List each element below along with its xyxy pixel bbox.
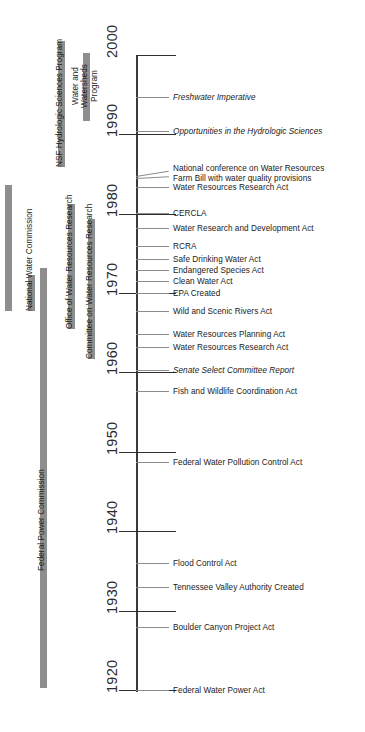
- event-label-federal-water-power-act: Federal Water Power Act: [173, 686, 265, 695]
- event-label-rcra: RCRA: [173, 242, 196, 251]
- event-leader-senate-select-committee-report: [136, 370, 169, 371]
- axis-tick-1950: [119, 452, 176, 453]
- event-leader-flood-control-act: [136, 563, 169, 564]
- year-label-1990: 1990: [104, 104, 120, 137]
- event-leader-water-research-development-act: [136, 228, 169, 229]
- event-leader-water-resources-research-act-1964: [136, 347, 169, 348]
- event-leader-water-resources-research-act-1984: [136, 187, 169, 188]
- program-label-line-2: Watersheds Program: [80, 64, 98, 108]
- program-label-nsf-hydrologic-sciences: NSF Hydrologic Sciences Program: [55, 39, 64, 167]
- axis-tick-1960: [119, 372, 176, 373]
- event-leader-clean-water-act: [136, 281, 169, 282]
- program-label-line-1: Water and: [71, 67, 80, 105]
- event-leader-tennessee-valley-authority: [136, 587, 169, 588]
- event-label-national-conference-water-resources: National conference on Water Resources: [173, 164, 324, 173]
- program-label-federal-power-commission: Federal Power Commission: [37, 469, 46, 571]
- event-leader-freshwater-imperative: [136, 97, 169, 98]
- event-label-senate-select-committee-report: Senate Select Committee Report: [173, 366, 294, 375]
- event-leader-epa-created: [136, 293, 169, 294]
- program-label-committee-on-water-resources-research: Committee on Water Resources Research: [85, 204, 94, 359]
- event-leader-federal-water-power-act: [136, 690, 169, 691]
- event-label-water-resources-research-act-1984: Water Resources Research Act: [173, 183, 288, 192]
- timeline-figure: NSF Hydrologic Sciences Program Water an…: [0, 0, 365, 732]
- year-label-1980: 1980: [104, 184, 120, 217]
- event-leader-rcra: [136, 246, 169, 247]
- axis-tick-2000: [136, 55, 176, 56]
- event-label-tennessee-valley-authority: Tennessee Valley Authority Created: [173, 583, 304, 592]
- year-label-1930: 1930: [104, 581, 120, 614]
- program-label-office-of-water-resources-research: Office of Water Resources Research: [65, 194, 74, 329]
- year-label-2000: 2000: [104, 25, 120, 58]
- event-label-flood-control-act: Flood Control Act: [173, 559, 237, 568]
- event-leader-wild-scenic-rivers-act: [136, 311, 169, 312]
- axis-tick-1990: [119, 134, 176, 135]
- event-label-opportunities-hydrologic-sciences: Opportunities in the Hydrologic Sciences: [173, 127, 322, 136]
- axis-tick-1980: [119, 214, 176, 215]
- event-label-federal-water-pollution-control-act: Federal Water Pollution Control Act: [173, 458, 302, 467]
- event-label-farm-bill: Farm Bill with water quality provisions: [173, 174, 311, 183]
- axis-tick-1940: [119, 531, 176, 532]
- event-leader-federal-water-pollution-control-act: [136, 462, 169, 463]
- event-label-wild-scenic-rivers-act: Wild and Scenic Rivers Act: [173, 307, 272, 316]
- year-label-1950: 1950: [104, 422, 120, 455]
- event-label-water-research-development-act: Water Research and Development Act: [173, 224, 314, 233]
- program-bar-leftmost-unlabeled: [5, 185, 12, 311]
- year-label-1920: 1920: [104, 660, 120, 693]
- event-leader-fish-wildlife-coordination-act: [136, 391, 169, 392]
- timeline-axis: [136, 55, 138, 692]
- event-label-epa-created: EPA Created: [173, 289, 220, 298]
- year-label-1960: 1960: [104, 342, 120, 375]
- axis-tick-1930: [119, 611, 176, 612]
- event-label-cercla: CERCLA: [173, 209, 207, 218]
- event-leader-safe-drinking-water-act: [136, 259, 169, 260]
- event-leader-water-resources-planning-act: [136, 334, 169, 335]
- event-label-fish-wildlife-coordination-act: Fish and Wildlife Coordination Act: [173, 387, 297, 396]
- program-label-national-water-commission: National Water Commission: [25, 209, 34, 311]
- event-label-boulder-canyon-project-act: Boulder Canyon Project Act: [173, 623, 274, 632]
- year-label-1970: 1970: [104, 263, 120, 296]
- event-label-safe-drinking-water-act: Safe Drinking Water Act: [173, 255, 261, 264]
- event-leader-endangered-species-act: [136, 270, 169, 271]
- event-label-water-resources-research-act-1964: Water Resources Research Act: [173, 343, 288, 352]
- event-label-freshwater-imperative: Freshwater Imperative: [173, 93, 256, 102]
- event-leader-farm-bill: [136, 176, 169, 179]
- year-label-1940: 1940: [104, 501, 120, 534]
- event-leader-opportunities-hydrologic-sciences: [136, 131, 169, 132]
- event-label-water-resources-planning-act: Water Resources Planning Act: [173, 330, 285, 339]
- event-leader-boulder-canyon-project-act: [136, 627, 169, 628]
- program-label-water-and-watersheds: Water and Watersheds Program: [71, 51, 99, 121]
- event-label-clean-water-act: Clean Water Act: [173, 277, 233, 286]
- event-leader-cercla: [136, 213, 169, 214]
- event-label-endangered-species-act: Endangered Species Act: [173, 266, 264, 275]
